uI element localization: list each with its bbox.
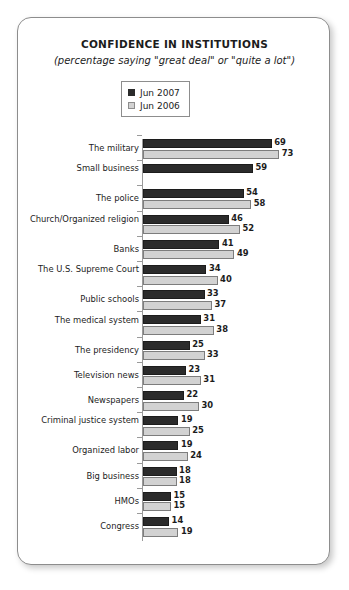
category-label: The military bbox=[29, 144, 139, 154]
bar-jun-2007 bbox=[143, 492, 171, 501]
bar-group: The medical system3138 bbox=[18, 315, 331, 335]
axis-tick bbox=[137, 387, 142, 388]
category-label: The police bbox=[29, 194, 139, 204]
axis-tick bbox=[137, 185, 142, 186]
legend-label-jun-2006: Jun 2006 bbox=[140, 101, 180, 111]
bar-value-label: 40 bbox=[220, 275, 232, 284]
bar-group: Public schools3337 bbox=[18, 290, 331, 310]
axis-tick bbox=[137, 513, 142, 514]
bar-jun-2006 bbox=[143, 477, 177, 486]
bar-group: HMOs1515 bbox=[18, 492, 331, 512]
legend-swatch-icon-jun-2006 bbox=[128, 102, 135, 109]
bar-value-label: 15 bbox=[173, 501, 185, 510]
axis-tick bbox=[137, 437, 142, 438]
bar-value-label: 54 bbox=[246, 188, 258, 197]
axis-tick bbox=[137, 311, 142, 312]
bar-jun-2007 bbox=[143, 416, 178, 425]
bar-jun-2006 bbox=[143, 326, 214, 335]
bar-value-label: 52 bbox=[242, 224, 254, 233]
bar-value-label: 25 bbox=[192, 340, 204, 349]
bar-jun-2006 bbox=[143, 276, 218, 285]
axis-tick bbox=[137, 160, 142, 161]
bar-group: Church/Organized religion4652 bbox=[18, 215, 331, 235]
category-label: Congress bbox=[29, 522, 139, 532]
bar-group: The military6973 bbox=[18, 139, 331, 159]
bar-jun-2007 bbox=[143, 441, 178, 450]
category-label: Church/Organized religion bbox=[29, 215, 139, 225]
axis-tick bbox=[137, 211, 142, 212]
chart-plot-area: The military6973Small business59The poli… bbox=[18, 130, 331, 550]
bar-group: Congress1419 bbox=[18, 517, 331, 537]
bar-group: The U.S. Supreme Court3440 bbox=[18, 265, 331, 285]
bar-jun-2006 bbox=[143, 250, 234, 259]
bar-value-label: 49 bbox=[237, 249, 249, 258]
axis-tick bbox=[137, 236, 142, 237]
bar-jun-2006 bbox=[143, 528, 178, 537]
category-label: Public schools bbox=[29, 295, 139, 305]
legend-item-jun-2006: Jun 2006 bbox=[128, 99, 180, 112]
bar-group: Newspapers2230 bbox=[18, 391, 331, 411]
axis-tick bbox=[137, 286, 142, 287]
axis-tick bbox=[137, 261, 142, 262]
bar-jun-2006 bbox=[143, 301, 212, 310]
bar-value-label: 33 bbox=[207, 350, 219, 359]
bar-jun-2007 bbox=[143, 366, 186, 375]
bar-jun-2006 bbox=[143, 502, 171, 511]
bar-value-label: 30 bbox=[201, 401, 213, 410]
legend-swatch-icon-jun-2007 bbox=[128, 89, 135, 96]
category-label: Small business bbox=[29, 164, 139, 174]
axis-tick bbox=[137, 135, 142, 136]
bar-jun-2006 bbox=[143, 452, 188, 461]
page-title: CONFIDENCE IN INSTITUTIONS bbox=[18, 38, 331, 50]
bar-value-label: 38 bbox=[216, 325, 228, 334]
bar-jun-2007 bbox=[143, 139, 272, 148]
category-label: Television news bbox=[29, 371, 139, 381]
bar-value-label: 19 bbox=[181, 440, 193, 449]
category-label: Criminal justice system bbox=[29, 416, 139, 426]
bar-group: The presidency2533 bbox=[18, 341, 331, 361]
bar-value-label: 14 bbox=[172, 516, 184, 525]
bar-jun-2006 bbox=[143, 200, 251, 209]
bar-value-label: 23 bbox=[188, 365, 200, 374]
axis-tick bbox=[137, 362, 142, 363]
bar-value-label: 31 bbox=[203, 375, 215, 384]
axis-tick bbox=[137, 463, 142, 464]
bar-jun-2007 bbox=[143, 391, 184, 400]
bar-value-label: 19 bbox=[181, 415, 193, 424]
chart-legend: Jun 2007 Jun 2006 bbox=[121, 81, 190, 117]
bar-value-label: 15 bbox=[173, 491, 185, 500]
category-label: Banks bbox=[29, 245, 139, 255]
bar-group: Small business59 bbox=[18, 164, 331, 184]
category-label: Organized labor bbox=[29, 446, 139, 456]
bar-jun-2007 bbox=[143, 215, 229, 224]
category-label: HMOs bbox=[29, 497, 139, 507]
bar-value-label: 18 bbox=[179, 476, 191, 485]
bar-value-label: 37 bbox=[215, 300, 227, 309]
category-label: The U.S. Supreme Court bbox=[29, 265, 139, 275]
bar-jun-2007 bbox=[143, 315, 201, 324]
chart-card: CONFIDENCE IN INSTITUTIONS (percentage s… bbox=[17, 17, 330, 565]
bar-group: Big business1818 bbox=[18, 467, 331, 487]
legend-label-jun-2007: Jun 2007 bbox=[140, 88, 180, 98]
axis-tick bbox=[137, 412, 142, 413]
category-label: The presidency bbox=[29, 346, 139, 356]
title-block: CONFIDENCE IN INSTITUTIONS (percentage s… bbox=[18, 38, 331, 66]
bar-value-label: 69 bbox=[274, 138, 286, 147]
bar-group: Organized labor1924 bbox=[18, 441, 331, 461]
bar-jun-2007 bbox=[143, 341, 190, 350]
bar-group: Criminal justice system1925 bbox=[18, 416, 331, 436]
bar-value-label: 18 bbox=[179, 466, 191, 475]
bar-jun-2006 bbox=[143, 427, 190, 436]
category-label: Big business bbox=[29, 472, 139, 482]
bar-jun-2006 bbox=[143, 225, 240, 234]
bar-value-label: 31 bbox=[203, 314, 215, 323]
bar-value-label: 22 bbox=[187, 390, 199, 399]
bar-jun-2006 bbox=[143, 402, 199, 411]
axis-tick bbox=[137, 488, 142, 489]
bar-value-label: 19 bbox=[181, 527, 193, 536]
bar-group: Banks4149 bbox=[18, 240, 331, 260]
legend-item-jun-2007: Jun 2007 bbox=[128, 86, 180, 99]
axis-tick bbox=[137, 337, 142, 338]
category-label: Newspapers bbox=[29, 396, 139, 406]
bar-value-label: 58 bbox=[254, 199, 266, 208]
